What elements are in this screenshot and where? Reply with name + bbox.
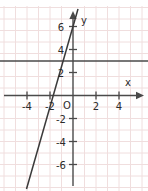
y-tick-label-neg6: -6 — [56, 160, 66, 171]
y-tick-label-neg2: -2 — [56, 114, 66, 125]
x-tick-label-2: 2 — [93, 101, 99, 112]
x-tick-label-neg2: -2 — [45, 101, 55, 112]
x-tick-label-neg4: -4 — [22, 101, 32, 112]
y-tick-label-2: 2 — [58, 68, 64, 79]
y-tick-label-6: 6 — [58, 22, 64, 33]
x-axis-label: x — [125, 77, 131, 88]
y-tick-label-neg4: -4 — [56, 137, 66, 148]
origin-label: O — [63, 100, 71, 111]
coordinate-plane: -4 -2 2 4 6 4 2 -2 -4 -6 O x y — [0, 0, 148, 191]
x-tick-label-4: 4 — [116, 101, 122, 112]
x-axis-arrow — [136, 92, 144, 99]
y-axis-label: y — [81, 15, 87, 26]
x-axis — [4, 92, 144, 99]
grid-lines — [0, 6, 148, 191]
y-tick-label-4: 4 — [58, 45, 64, 56]
graph-figure: -4 -2 2 4 6 4 2 -2 -4 -6 O x y — [0, 0, 148, 191]
grid-horizontal — [0, 8, 148, 188]
series-steep-line — [27, 9, 79, 189]
